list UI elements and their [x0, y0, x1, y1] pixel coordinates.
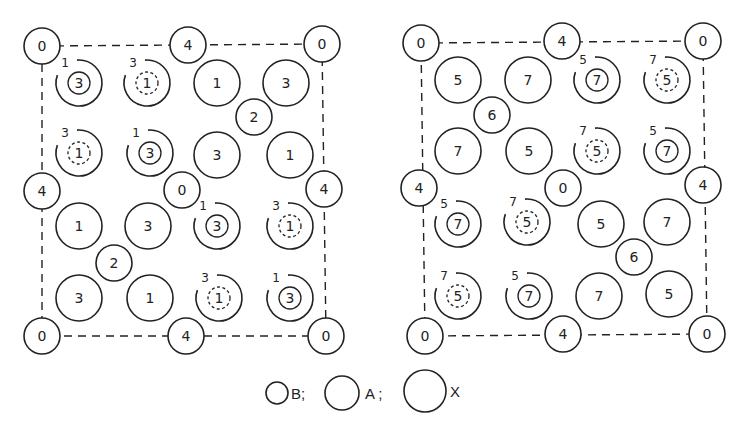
atom-x: 0 — [24, 318, 60, 354]
overlapping-atom-label: 3 — [286, 290, 295, 306]
atom-a: 75 — [644, 53, 690, 103]
legend-b-symbol-icon — [266, 382, 288, 404]
atom-b: 2 — [96, 245, 132, 281]
atom-a: 5 — [506, 128, 552, 174]
atom-height-label: 3 — [129, 56, 137, 70]
atom-a: 13 — [194, 199, 240, 249]
atom-height-label: 3 — [144, 218, 153, 234]
overlapping-atom-label: 1 — [143, 75, 152, 91]
left-projection-panel: 13311331133113133131311322000044440 — [24, 26, 344, 354]
atom-x: 0 — [685, 23, 721, 59]
atom-height-label: 5 — [511, 269, 519, 283]
crystal-structure-diagram: 13311331133113133131311322000044440 5757… — [0, 0, 746, 431]
atom-a: 57 — [644, 124, 690, 174]
atom-height-label: 3 — [61, 126, 69, 140]
atom-height-label: 4 — [182, 328, 191, 344]
overlapping-atom-label: 7 — [454, 216, 463, 232]
atom-a: 7 — [576, 273, 622, 319]
atom-height-label: 0 — [421, 328, 430, 344]
atom-height-label: 0 — [322, 328, 331, 344]
atom-height-label: 4 — [38, 183, 47, 199]
overlapping-atom-label: 5 — [523, 214, 532, 230]
atom-a: 3 — [194, 132, 240, 178]
atom-x: 0 — [164, 172, 200, 208]
atom-a: 1 — [194, 60, 240, 106]
atom-a: 13 — [56, 56, 102, 106]
atom-a: 1 — [56, 203, 102, 249]
overlapping-atom-label: 3 — [75, 75, 84, 91]
atom-height-label: 1 — [132, 126, 140, 140]
legend-x-symbol-icon — [404, 370, 446, 412]
atom-a: 7 — [644, 199, 690, 245]
right-projection-panel: 57577575755757755775577566000044440 — [401, 23, 725, 354]
overlapping-atom-label: 5 — [593, 143, 602, 159]
atom-a: 5 — [646, 271, 692, 317]
atom-a: 57 — [574, 53, 620, 103]
atom-height-label: 5 — [649, 124, 657, 138]
atom-a: 75 — [504, 195, 550, 245]
atom-a: 7 — [435, 128, 481, 174]
atom-height-label: 3 — [272, 199, 280, 213]
atom-a: 75 — [574, 124, 620, 174]
atom-height-label: 0 — [38, 38, 47, 54]
overlapping-atom-label: 1 — [286, 218, 295, 234]
atom-a: 1 — [267, 132, 313, 178]
atom-x: 4 — [544, 23, 580, 59]
atom-height-label: 4 — [699, 177, 708, 193]
atom-a: 3 — [56, 275, 102, 321]
atom-height-label: 0 — [559, 180, 568, 196]
atom-height-label: 5 — [440, 197, 448, 211]
atom-height-label: 5 — [579, 53, 587, 67]
atom-height-label: 5 — [454, 72, 463, 88]
atom-height-label: 7 — [509, 195, 517, 209]
atom-x: 4 — [168, 318, 204, 354]
atom-height-label: 7 — [440, 269, 448, 283]
atom-x: 0 — [689, 316, 725, 352]
atom-height-label: 1 — [61, 56, 69, 70]
atom-height-label: 1 — [199, 199, 207, 213]
atom-a: 31 — [56, 126, 102, 176]
overlapping-atom-label: 3 — [213, 218, 222, 234]
atom-a: 31 — [267, 199, 313, 249]
atom-height-label: 3 — [75, 290, 84, 306]
atom-height-label: 0 — [699, 33, 708, 49]
atom-height-label: 5 — [597, 216, 606, 232]
overlapping-atom-label: 3 — [146, 145, 155, 161]
overlapping-atom-label: 7 — [525, 288, 534, 304]
atom-a: 3 — [125, 203, 171, 249]
atom-height-label: 1 — [75, 218, 84, 234]
atom-b: 2 — [236, 99, 272, 135]
atom-height-label: 4 — [558, 33, 567, 49]
atom-height-label: 3 — [282, 75, 291, 91]
atom-height-label: 0 — [38, 328, 47, 344]
overlapping-atom-label: 1 — [75, 145, 84, 161]
atom-height-label: 2 — [250, 109, 259, 125]
atom-height-label: 0 — [703, 326, 712, 342]
atom-height-label: 0 — [318, 36, 327, 52]
atom-height-label: 1 — [146, 290, 155, 306]
atom-height-label: 7 — [524, 72, 533, 88]
legend: B; A ; X — [266, 370, 460, 412]
atom-height-label: 2 — [110, 255, 119, 271]
atom-height-label: 3 — [201, 271, 209, 285]
atom-a: 3 — [263, 60, 309, 106]
atom-height-label: 1 — [213, 75, 222, 91]
legend-a-label: A ; — [365, 385, 383, 402]
legend-x-label: X — [450, 383, 460, 400]
legend-a-symbol-icon — [325, 376, 359, 410]
atom-a: 7 — [505, 57, 551, 103]
atom-height-label: 7 — [663, 214, 672, 230]
atom-a: 75 — [435, 269, 481, 319]
atom-height-label: 7 — [595, 288, 604, 304]
atom-height-label: 4 — [559, 326, 568, 342]
overlapping-atom-label: 5 — [454, 288, 463, 304]
atom-x: 4 — [306, 171, 342, 207]
atom-a: 57 — [506, 269, 552, 319]
atom-height-label: 4 — [184, 37, 193, 53]
atom-x: 4 — [170, 27, 206, 63]
atom-height-label: 1 — [286, 147, 295, 163]
atom-height-label: 6 — [488, 107, 497, 123]
atom-a: 5 — [578, 201, 624, 247]
atom-a: 31 — [124, 56, 170, 106]
atom-height-label: 6 — [630, 249, 639, 265]
